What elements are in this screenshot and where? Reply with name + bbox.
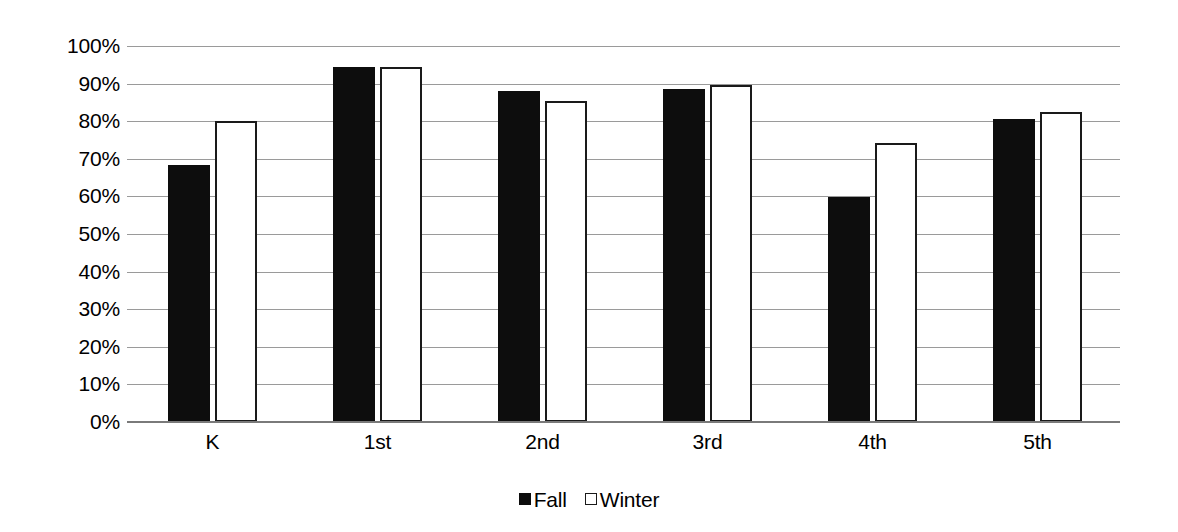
y-axis-tick-label: 80%	[2, 110, 120, 131]
bar-fall-3rd	[663, 89, 705, 422]
x-axis-line	[127, 421, 1120, 423]
y-axis-tick-label: 90%	[2, 73, 120, 94]
bar-winter-5th	[1040, 112, 1082, 422]
y-axis-tick-label: 10%	[2, 373, 120, 394]
bar-fall-1st	[333, 67, 375, 422]
plot-area	[127, 46, 1120, 422]
y-axis-tick-label: 40%	[2, 261, 120, 282]
y-axis-tick-label: 50%	[2, 223, 120, 244]
legend-item-winter[interactable]: Winter	[585, 489, 659, 510]
x-axis-tick-label: 5th	[978, 428, 1098, 456]
x-axis-tick-label: 4th	[813, 428, 933, 456]
bar-winter-k	[215, 121, 257, 422]
x-axis: K1st2nd3rd4th5th	[127, 428, 1120, 462]
x-axis-tick-label: 1st	[318, 428, 438, 456]
legend-swatch-icon	[585, 493, 597, 505]
legend-label: Fall	[534, 489, 567, 510]
y-axis-tick-label: 70%	[2, 148, 120, 169]
y-axis-tick-label: 100%	[2, 35, 120, 56]
bar-winter-2nd	[545, 101, 587, 422]
bar-winter-4th	[875, 143, 917, 422]
y-axis-tick-label: 0%	[2, 411, 120, 432]
bar-fall-5th	[993, 119, 1035, 422]
bar-winter-3rd	[710, 85, 752, 422]
y-axis-tick-label: 20%	[2, 336, 120, 357]
y-axis-tick-label: 30%	[2, 298, 120, 319]
y-axis: 0%10%20%30%40%50%60%70%80%90%100%	[0, 0, 120, 432]
x-axis-tick-label: K	[153, 428, 273, 456]
bar-winter-1st	[380, 67, 422, 422]
legend-label: Winter	[600, 489, 659, 510]
y-axis-tick-label: 60%	[2, 185, 120, 206]
legend-swatch-icon	[519, 493, 531, 505]
bars-layer	[127, 46, 1120, 422]
x-axis-tick-label: 2nd	[483, 428, 603, 456]
bar-fall-k	[168, 165, 210, 422]
chart-legend: FallWinter	[0, 484, 1178, 514]
bar-fall-2nd	[498, 91, 540, 422]
bar-fall-4th	[828, 197, 870, 422]
x-axis-tick-label: 3rd	[648, 428, 768, 456]
legend-item-fall[interactable]: Fall	[519, 489, 567, 510]
bar-chart: 0%10%20%30%40%50%60%70%80%90%100% K1st2n…	[0, 0, 1178, 532]
